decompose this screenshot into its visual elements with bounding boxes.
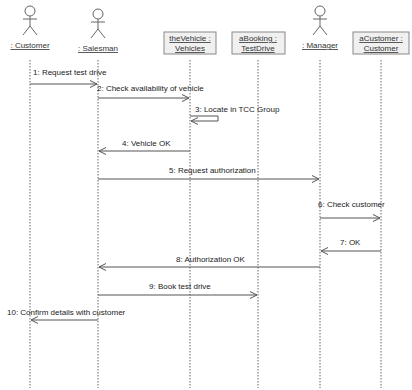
stick-figure-icon <box>91 9 105 38</box>
message-label: 2: Check availability of vehicle <box>97 84 204 93</box>
stick-figure-icon <box>313 6 327 35</box>
message-label: 1: Request test drive <box>33 68 107 77</box>
participant-label: : Customer <box>10 41 49 50</box>
message-3: 3: Locate in TCC Group <box>190 105 280 121</box>
object-name: theVehicle : <box>169 34 210 43</box>
participant-label: : Salesman <box>78 44 118 53</box>
participant-label: : Manager <box>302 41 338 50</box>
object-class: TestDrive <box>241 44 275 53</box>
object-booking: aBooking : TestDrive <box>232 32 285 54</box>
object-vehicle: theVehicle : Vehicles <box>164 32 216 54</box>
message-7: 7: OK <box>321 238 381 251</box>
actor-manager: : Manager <box>302 6 338 50</box>
message-label: 10: Confirm details with customer <box>7 308 126 317</box>
message-label: 5: Request authorization <box>169 166 256 175</box>
message-10: 10: Confirm details with customer <box>7 308 126 320</box>
message-label: 3: Locate in TCC Group <box>195 105 280 114</box>
sequence-diagram: : Customer : Salesman theVehicle : Vehic… <box>0 0 412 390</box>
object-class: Customer <box>364 44 399 53</box>
message-label: 7: OK <box>340 238 361 247</box>
message-label: 6: Check customer <box>318 200 385 209</box>
object-name: aBooking : <box>239 34 277 43</box>
actor-customer: : Customer <box>10 6 49 50</box>
message-1: 1: Request test drive <box>30 68 107 84</box>
message-2: 2: Check availability of vehicle <box>97 84 204 98</box>
object-name: aCustomer : <box>359 34 403 43</box>
message-6: 6: Check customer <box>318 200 385 218</box>
message-5: 5: Request authorization <box>98 166 319 179</box>
self-arrow <box>190 116 218 121</box>
messages: 1: Request test drive 2: Check availabil… <box>7 68 385 320</box>
message-4: 4: Vehicle OK <box>99 139 190 151</box>
message-8: 8: Authorization OK <box>99 255 320 267</box>
message-9: 9: Book test drive <box>98 282 257 295</box>
object-class: Vehicles <box>175 44 205 53</box>
object-acustomer: aCustomer : Customer <box>353 32 409 54</box>
message-label: 4: Vehicle OK <box>122 139 171 148</box>
message-label: 9: Book test drive <box>149 282 211 291</box>
stick-figure-icon <box>23 6 37 35</box>
actor-salesman: : Salesman <box>78 9 118 53</box>
message-label: 8: Authorization OK <box>176 255 246 264</box>
